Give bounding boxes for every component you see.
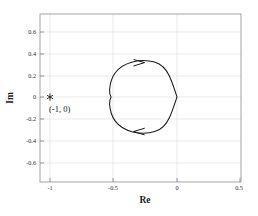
y-tick-label: 0 (33, 93, 36, 100)
x-tick-label: 0.5 (235, 184, 243, 191)
nyquist-figure: 0.6 0.4 0.2 0 -0.2 -0.4 -0.6 -1 -0.5 0 0… (0, 0, 258, 216)
x-axis-title: Re (139, 195, 150, 205)
x-tick-label: 0 (175, 184, 178, 191)
y-tick-labels: 0.6 0.4 0.2 0 -0.2 -0.4 -0.6 (26, 28, 36, 166)
y-tick-label: -0.6 (26, 159, 36, 166)
plot-canvas: 0.6 0.4 0.2 0 -0.2 -0.4 -0.6 -1 -0.5 0 0… (0, 0, 258, 216)
x-tick-labels: -1 -0.5 0 0.5 (47, 184, 242, 191)
x-tick-label: -1 (47, 184, 52, 191)
y-tick-label: 0.6 (28, 28, 36, 35)
y-tick-label: -0.4 (26, 137, 36, 144)
plot-background (40, 14, 241, 182)
critical-point-label: (-1, 0) (49, 104, 70, 114)
y-tick-label: 0.4 (28, 50, 36, 57)
x-tick-label: -0.5 (108, 184, 118, 191)
y-axis-title: Im (5, 92, 15, 104)
y-tick-label: -0.2 (26, 115, 36, 122)
y-tick-label: 0.2 (28, 72, 36, 79)
